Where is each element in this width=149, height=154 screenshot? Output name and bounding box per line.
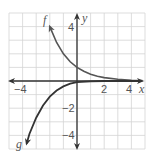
tick-label-y-neg4: −4 xyxy=(62,129,75,141)
label-x-axis: x xyxy=(138,82,145,96)
tick-label-x-2: 2 xyxy=(101,83,107,95)
curve-g xyxy=(27,81,143,144)
tick-label-x-neg4: −4 xyxy=(14,83,27,95)
tick-label-x-4: 4 xyxy=(126,83,132,95)
label-y-axis: y xyxy=(81,11,88,25)
exponential-graph: f y x g −4 2 4 4 −2 −4 xyxy=(0,0,149,154)
tick-label-y-neg2: −2 xyxy=(62,102,75,114)
label-f: f xyxy=(43,13,48,27)
tick-label-y-4: 4 xyxy=(68,21,74,33)
label-g: g xyxy=(16,137,22,151)
